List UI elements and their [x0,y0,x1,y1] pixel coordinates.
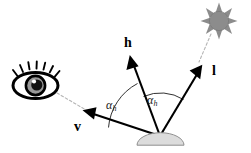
label-view-vector-v: v [74,120,81,134]
vectors [83,55,203,136]
alpha-subscript-left: h [112,104,116,113]
eye-to-view-dashed-ray [57,93,86,110]
sun-icon [201,3,238,40]
shading-geometry-diagram: h l v αh αh [0,0,251,153]
sun-disc [209,11,228,30]
dashed-rays [57,34,211,110]
light-vector-l [160,65,202,136]
label-light-vector-l: l [212,64,216,78]
label-halfway-vector-h: h [124,36,132,50]
angle-arcs [109,84,184,128]
label-angle-alpha-h-right: αh [147,94,157,108]
view-vector-v [83,107,161,136]
sun-to-light-dashed-ray [199,34,211,62]
surface-point-dome [137,133,184,145]
eye-icon [13,61,60,98]
label-angle-alpha-h-left: αh [106,99,116,113]
alpha-subscript-right: h [153,99,157,108]
